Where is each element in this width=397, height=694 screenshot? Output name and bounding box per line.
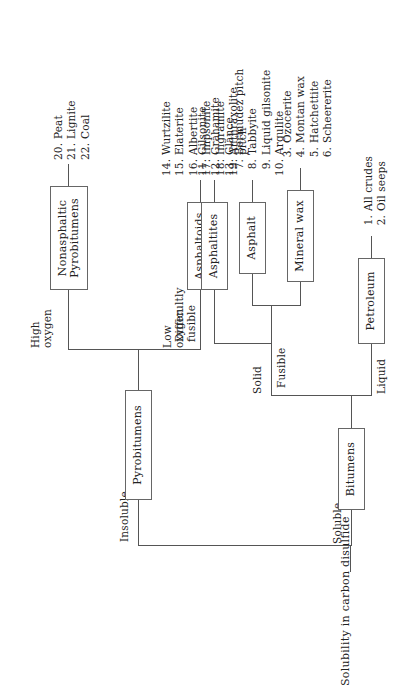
leaf-list-mineral-wax: 3.Ozocerite4.Montan wax5.Hatchettite6.Sc… <box>281 76 335 164</box>
difficultly-fusible-edge-line <box>214 290 215 344</box>
list-item-label: Grahamite <box>209 97 222 155</box>
list-item-label: All crudes <box>362 156 375 211</box>
list-item-label: Gilsonite <box>196 106 209 155</box>
list-item-label: Argulite <box>273 111 286 155</box>
list-item-label: Liquid gilsonite <box>260 70 273 155</box>
list-item-number: 15. <box>173 159 186 176</box>
list-item-label: Montan wax <box>294 76 307 143</box>
list-item-label: Peat <box>52 115 65 139</box>
insoluble-edge-line <box>138 500 139 546</box>
list-item-label: Wurtzilite <box>160 101 173 155</box>
list-item-label: Lignite <box>65 100 78 139</box>
liquid-edge-line <box>371 344 372 396</box>
list-item: 21.Lignite <box>65 100 78 160</box>
root-stem-line <box>350 546 351 572</box>
pyrobitumens-split-spine <box>68 349 200 350</box>
solid-split-spine <box>214 343 271 344</box>
list-item-number: 9. <box>260 159 273 176</box>
list-item: 13.Glance pitch <box>223 97 250 176</box>
rotated-diagram-wrapper: Solubility in carbon disulfide Insoluble… <box>0 0 397 694</box>
list-item: 5.Hatchettite <box>308 76 321 164</box>
list-item: 1.All crudes <box>362 156 375 232</box>
asphalt-leaf-line <box>252 180 253 202</box>
node-pyrobitumens[interactable]: Pyrobitumens <box>125 390 152 500</box>
list-item-number: 5. <box>308 147 321 164</box>
solid-edge-line <box>271 344 272 396</box>
leaf-list-nonasphaltic: 20.Peat21.Lignite22.Coal <box>52 100 92 160</box>
soluble-edge-line <box>351 510 352 546</box>
list-item-number: 14. <box>160 159 173 176</box>
mineral-wax-leaf-line <box>300 168 301 190</box>
pyrobitumens-out-line <box>138 350 139 390</box>
leaf-list-petroleum: 1.All crudes2.Oil seeps <box>362 156 389 232</box>
list-item: 6.Scheererite <box>321 76 334 164</box>
list-item-number: 10. <box>273 159 286 176</box>
list-item: 4.Montan wax <box>294 76 307 164</box>
list-item-label: Hatchettite <box>308 81 321 143</box>
node-nonasphaltic-pyrobitumens[interactable]: Nonasphaltic Pyrobitumens <box>50 186 88 290</box>
list-item-number: 21. <box>65 143 78 160</box>
node-bitumens[interactable]: Bitumens <box>338 428 365 510</box>
leaf-list-asphaltites: 11.Gilsonite12.Grahamite13.Glance pitch <box>196 97 250 176</box>
mineral-wax-edge-line <box>300 282 301 306</box>
list-item-number: 22. <box>79 143 92 160</box>
bitumens-out-line <box>351 396 352 428</box>
list-item-number: 4. <box>294 147 307 164</box>
bitumens-split-spine <box>271 395 371 396</box>
list-item-number: 13. <box>223 159 250 176</box>
fusible-split-spine <box>252 305 300 306</box>
node-petroleum[interactable]: Petroleum <box>358 258 385 344</box>
asphaltoids-leaf-line <box>200 180 201 202</box>
node-mineral-wax[interactable]: Mineral wax <box>287 190 314 282</box>
list-item-number: 11. <box>196 159 209 176</box>
asphaltites-leaf-line <box>214 180 215 202</box>
list-item: 9.Liquid gilsonite <box>260 68 273 176</box>
classification-tree-diagram: Solubility in carbon disulfide Insoluble… <box>0 0 397 694</box>
low-oxygen-edge-line <box>200 290 201 350</box>
node-asphalt[interactable]: Asphalt <box>239 202 266 274</box>
list-item: 11.Gilsonite <box>196 97 209 176</box>
root-spine-line <box>138 545 351 546</box>
list-item-number: 6. <box>321 147 334 164</box>
list-item-number: 1. <box>362 215 375 232</box>
list-item: 22.Coal <box>79 100 92 160</box>
high-oxygen-edge-line <box>68 290 69 350</box>
nonasphaltic-leaf-line <box>68 164 69 186</box>
edge-label-high-oxygen: High oxygen <box>29 282 53 348</box>
list-item: 2.Oil seeps <box>375 156 388 232</box>
list-item-number: 12. <box>209 159 222 176</box>
list-item-label: Oil seeps <box>375 161 388 211</box>
node-asphaltites[interactable]: Asphaltites <box>201 202 228 290</box>
list-item: 12.Grahamite <box>209 97 222 176</box>
list-item: 20.Peat <box>52 100 65 160</box>
list-item: 14.Wurtzilite <box>160 87 173 176</box>
list-item-label: Coal <box>79 114 92 139</box>
list-item-label: Scheererite <box>321 79 334 143</box>
edge-label-fusible: Fusible <box>275 318 287 388</box>
list-item-label: Elaterite <box>173 107 186 155</box>
list-item: 15.Elaterite <box>173 87 186 176</box>
list-item: 10.Argulite <box>273 68 286 176</box>
petroleum-leaf-line <box>371 236 372 258</box>
edge-label-difficultly-fusible: Difficultly fusible <box>173 266 197 342</box>
list-item-label: Glance pitch <box>223 117 250 155</box>
list-item-number: 2. <box>375 215 388 232</box>
list-item-number: 20. <box>52 143 65 160</box>
asphalt-edge-line <box>252 274 253 306</box>
fusible-connector-line <box>271 306 272 344</box>
